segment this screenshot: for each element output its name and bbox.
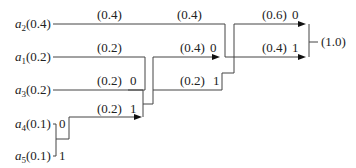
- root-label: (1.0): [321, 34, 346, 49]
- bit-label: 0: [210, 40, 217, 55]
- source-a1: a1(0.2): [15, 49, 51, 66]
- svg-text:a1(0.2): a1(0.2): [15, 49, 51, 66]
- huffman-tree-diagram: a2(0.4) a1(0.2) a3(0.2) a4(0.1) a5(0.1) …: [0, 0, 356, 168]
- bit-label: 0: [130, 73, 137, 88]
- svg-text:a3(0.2): a3(0.2): [15, 82, 51, 99]
- bit-label: 0: [59, 116, 66, 131]
- edge-label: (0.2): [97, 101, 122, 116]
- svg-text:a4(0.1): a4(0.1): [15, 116, 51, 133]
- edge-label: (0.6): [262, 7, 287, 22]
- bit-label: 1: [59, 148, 66, 163]
- svg-text:a5(0.1): a5(0.1): [15, 148, 51, 165]
- edge-label: (0.4): [262, 40, 287, 55]
- edge-label: (0.4): [177, 7, 202, 22]
- arrow-icon: [298, 54, 306, 60]
- svg-text:a2(0.4): a2(0.4): [15, 16, 51, 33]
- edge-a45: [56, 117, 134, 139]
- edge-root: [309, 24, 318, 57]
- edge-label: (0.2): [97, 40, 122, 55]
- edge-label: (0.4): [180, 40, 205, 55]
- edge-label: (0.2): [97, 73, 122, 88]
- source-a2: a2(0.4): [15, 16, 51, 33]
- edge-a4-a5: [53, 124, 56, 156]
- arrow-icon: [298, 21, 306, 27]
- edge-label: (0.2): [180, 73, 205, 88]
- bit-label: 1: [130, 101, 137, 116]
- bit-label: 0: [292, 7, 299, 22]
- bit-label: 1: [292, 40, 299, 55]
- bit-label: 1: [213, 73, 220, 88]
- source-a5: a5(0.1): [15, 148, 51, 165]
- source-a4: a4(0.1): [15, 116, 51, 133]
- edge-label: (0.4): [97, 7, 122, 22]
- source-a3: a3(0.2): [15, 82, 51, 99]
